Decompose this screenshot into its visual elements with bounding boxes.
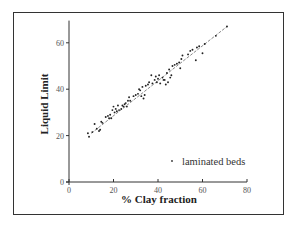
data-point bbox=[128, 96, 130, 98]
data-point bbox=[143, 98, 145, 100]
x-tick-label: 20 bbox=[110, 186, 118, 195]
data-point bbox=[135, 94, 137, 96]
data-point bbox=[108, 117, 110, 119]
data-point bbox=[150, 74, 152, 76]
data-point bbox=[195, 59, 197, 61]
y-tick-label: 40 bbox=[56, 85, 64, 94]
data-point bbox=[189, 50, 191, 52]
data-point bbox=[159, 82, 161, 84]
data-point bbox=[91, 131, 93, 133]
data-point bbox=[198, 45, 200, 47]
data-point bbox=[101, 122, 103, 124]
data-point bbox=[154, 79, 156, 81]
data-point bbox=[148, 81, 150, 83]
data-point bbox=[140, 95, 142, 97]
data-point bbox=[147, 84, 149, 86]
scatter-chart: 0204060800204060 laminated beds % Clay f… bbox=[0, 0, 295, 225]
legend-marker-icon bbox=[171, 160, 173, 162]
regression-line bbox=[91, 27, 227, 134]
data-point bbox=[123, 106, 125, 108]
data-point bbox=[156, 81, 158, 83]
data-point bbox=[144, 94, 146, 96]
x-axis-title: % Clay fraction bbox=[121, 193, 197, 205]
data-point bbox=[182, 55, 184, 57]
data-point bbox=[162, 77, 164, 79]
data-point bbox=[109, 114, 111, 116]
data-point bbox=[127, 100, 129, 102]
y-tick-label: 60 bbox=[56, 39, 64, 48]
data-point bbox=[202, 52, 204, 54]
data-point bbox=[204, 43, 206, 45]
data-point bbox=[168, 69, 170, 71]
data-point bbox=[118, 109, 120, 111]
data-point bbox=[111, 109, 113, 111]
legend: laminated beds bbox=[171, 156, 245, 167]
data-point bbox=[174, 64, 176, 66]
data-point bbox=[117, 104, 119, 106]
data-point bbox=[87, 132, 89, 134]
legend-label: laminated beds bbox=[182, 156, 245, 167]
x-tick-label: 80 bbox=[243, 186, 251, 195]
data-point bbox=[116, 110, 118, 112]
data-point bbox=[133, 95, 135, 97]
data-point bbox=[226, 26, 228, 28]
x-tick-label: 60 bbox=[199, 186, 207, 195]
data-point bbox=[166, 72, 168, 74]
data-point bbox=[196, 46, 198, 48]
data-point bbox=[107, 115, 109, 117]
data-point bbox=[126, 106, 128, 108]
data-point bbox=[157, 78, 159, 80]
data-point bbox=[192, 49, 194, 51]
data-point bbox=[180, 58, 182, 60]
data-point bbox=[164, 79, 166, 81]
data-point bbox=[96, 128, 98, 130]
y-axis-title: Liquid Limit bbox=[38, 73, 50, 134]
data-point bbox=[155, 75, 157, 77]
data-point bbox=[115, 108, 117, 110]
data-point bbox=[172, 65, 174, 67]
data-point bbox=[145, 85, 147, 87]
y-tick-label: 20 bbox=[56, 132, 64, 141]
data-point bbox=[114, 111, 116, 113]
data-point bbox=[169, 77, 171, 79]
data-point bbox=[165, 84, 167, 86]
y-tick-label: 0 bbox=[60, 178, 64, 187]
data-point bbox=[215, 35, 217, 37]
data-point bbox=[99, 129, 101, 131]
data-point bbox=[113, 106, 115, 108]
data-point bbox=[179, 67, 181, 69]
data-point bbox=[151, 82, 153, 84]
data-point bbox=[110, 117, 112, 119]
data-point bbox=[141, 86, 143, 88]
data-point bbox=[105, 116, 107, 118]
data-point bbox=[94, 123, 96, 125]
data-point bbox=[125, 102, 127, 104]
trend-line bbox=[91, 27, 227, 134]
data-point bbox=[129, 100, 131, 102]
data-point bbox=[158, 74, 160, 76]
data-point bbox=[176, 63, 178, 65]
axes: 0204060800204060 bbox=[56, 21, 251, 195]
data-point bbox=[170, 74, 172, 76]
data-point bbox=[137, 93, 139, 95]
data-point bbox=[120, 108, 122, 110]
data-point bbox=[139, 89, 141, 91]
data-point bbox=[167, 81, 169, 83]
data-point bbox=[88, 136, 90, 138]
x-tick-label: 0 bbox=[67, 186, 71, 195]
data-point bbox=[178, 62, 180, 64]
data-point bbox=[187, 53, 189, 55]
